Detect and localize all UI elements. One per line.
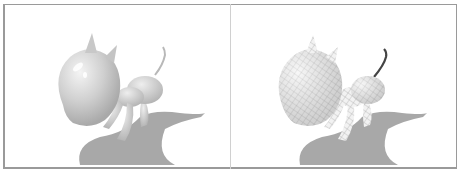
panel-smooth-render bbox=[5, 5, 231, 167]
smooth-dog-image bbox=[5, 5, 231, 167]
panel-wireframe-render bbox=[232, 5, 458, 167]
wireframe-dog-image bbox=[232, 5, 458, 167]
